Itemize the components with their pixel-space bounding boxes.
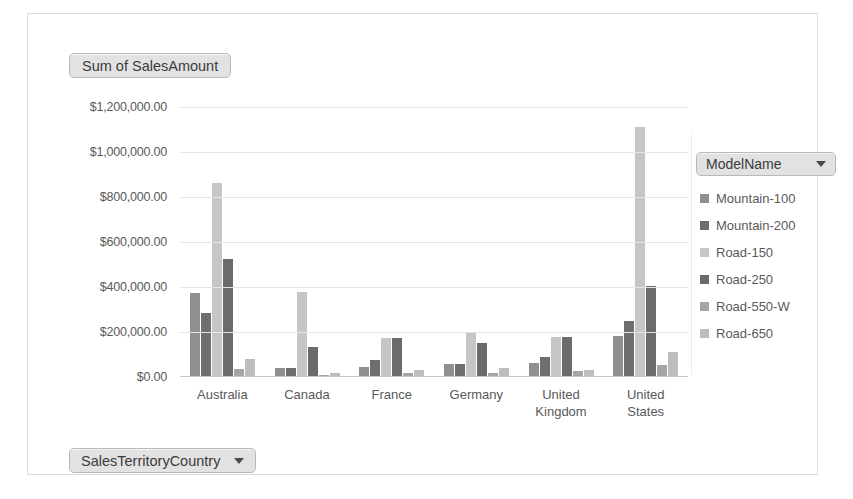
- y-axis-tick-label: $400,000.00: [100, 280, 167, 294]
- gridline: [180, 152, 688, 153]
- y-axis-tick-label: $1,200,000.00: [90, 100, 167, 114]
- bar[interactable]: [529, 363, 539, 377]
- pivot-chart-frame[interactable]: Sum of SalesAmount $1,200,000.00$1,000,0…: [27, 13, 818, 475]
- bar[interactable]: [455, 364, 465, 376]
- bar[interactable]: [488, 373, 498, 376]
- bar[interactable]: [403, 373, 413, 376]
- x-axis-tick-label: France: [349, 386, 434, 420]
- x-axis-tick-label: UnitedStates: [603, 386, 688, 420]
- legend-field-button[interactable]: ModelName: [696, 152, 836, 176]
- bar[interactable]: [223, 259, 233, 376]
- legend-item: Mountain-100: [696, 185, 836, 212]
- bar[interactable]: [190, 293, 200, 376]
- x-axis-tick-label: UnitedKingdom: [519, 386, 604, 420]
- x-axis-tick-label: Australia: [180, 386, 265, 420]
- bar[interactable]: [646, 286, 656, 376]
- legend-item-label: Road-650: [716, 326, 773, 341]
- bar[interactable]: [201, 313, 211, 376]
- legend-items: Mountain-100Mountain-200Road-150Road-250…: [696, 185, 836, 347]
- x-axis-tick-label: Germany: [434, 386, 519, 420]
- chevron-down-icon[interactable]: [234, 458, 244, 464]
- axis-baseline: [180, 376, 688, 377]
- bar[interactable]: [613, 336, 623, 377]
- legend-item-label: Mountain-100: [716, 191, 796, 206]
- x-axis-tick-label: Canada: [265, 386, 350, 420]
- legend-swatch-icon: [700, 275, 709, 284]
- bar[interactable]: [584, 370, 594, 376]
- bar[interactable]: [635, 127, 645, 376]
- bar[interactable]: [330, 373, 340, 376]
- legend-item-label: Road-550-W: [716, 299, 790, 314]
- gridline: [180, 107, 688, 108]
- bar[interactable]: [477, 343, 487, 376]
- bar[interactable]: [444, 364, 454, 376]
- legend-item: Road-550-W: [696, 293, 836, 320]
- axis-field-label: SalesTerritoryCountry: [81, 453, 220, 469]
- bar[interactable]: [308, 347, 318, 376]
- chevron-down-icon[interactable]: [816, 161, 826, 167]
- bar[interactable]: [624, 321, 634, 376]
- legend-item: Road-650: [696, 320, 836, 347]
- bar[interactable]: [392, 338, 402, 376]
- bar[interactable]: [286, 368, 296, 376]
- value-field-button[interactable]: Sum of SalesAmount: [69, 53, 231, 78]
- bar[interactable]: [297, 292, 307, 376]
- legend-swatch-icon: [700, 221, 709, 230]
- bar[interactable]: [540, 357, 550, 376]
- gridline: [180, 242, 688, 243]
- bar[interactable]: [212, 183, 222, 377]
- y-axis-tick-label: $600,000.00: [100, 235, 167, 249]
- value-field-label: Sum of SalesAmount: [82, 58, 218, 74]
- bar[interactable]: [414, 370, 424, 376]
- bar[interactable]: [499, 368, 509, 376]
- legend-item-label: Road-150: [716, 245, 773, 260]
- legend: ModelName Mountain-100Mountain-200Road-1…: [696, 152, 836, 347]
- y-axis-tick-label: $1,000,000.00: [90, 145, 167, 159]
- bar[interactable]: [245, 359, 255, 376]
- legend-field-label: ModelName: [706, 156, 781, 172]
- legend-item: Mountain-200: [696, 212, 836, 239]
- legend-divider: [691, 134, 692, 374]
- bar[interactable]: [562, 337, 572, 376]
- y-axis: $1,200,000.00$1,000,000.00$800,000.00$60…: [68, 99, 173, 377]
- bar[interactable]: [234, 369, 244, 376]
- bar[interactable]: [359, 367, 369, 376]
- bar[interactable]: [466, 332, 476, 376]
- gridline: [180, 197, 688, 198]
- plot-canvas: [180, 107, 688, 377]
- y-axis-tick-label: $200,000.00: [100, 325, 167, 339]
- gridline: [180, 332, 688, 333]
- legend-item-label: Road-250: [716, 272, 773, 287]
- y-axis-tick-label: $800,000.00: [100, 190, 167, 204]
- legend-item: Road-150: [696, 239, 836, 266]
- y-axis-tick-label: $0.00: [137, 370, 167, 384]
- bar[interactable]: [573, 371, 583, 376]
- bar[interactable]: [657, 365, 667, 376]
- legend-swatch-icon: [700, 248, 709, 257]
- x-axis: AustraliaCanadaFranceGermanyUnitedKingdo…: [180, 386, 688, 420]
- legend-swatch-icon: [700, 329, 709, 338]
- bar[interactable]: [381, 338, 391, 376]
- legend-swatch-icon: [700, 302, 709, 311]
- bar[interactable]: [551, 337, 561, 376]
- bar[interactable]: [319, 375, 329, 376]
- bar[interactable]: [668, 352, 678, 376]
- bar[interactable]: [370, 360, 380, 376]
- legend-swatch-icon: [700, 194, 709, 203]
- axis-field-button[interactable]: SalesTerritoryCountry: [69, 448, 256, 473]
- legend-item: Road-250: [696, 266, 836, 293]
- legend-item-label: Mountain-200: [716, 218, 796, 233]
- bar[interactable]: [275, 368, 285, 376]
- gridline: [180, 287, 688, 288]
- plot-area: $1,200,000.00$1,000,000.00$800,000.00$60…: [68, 99, 688, 399]
